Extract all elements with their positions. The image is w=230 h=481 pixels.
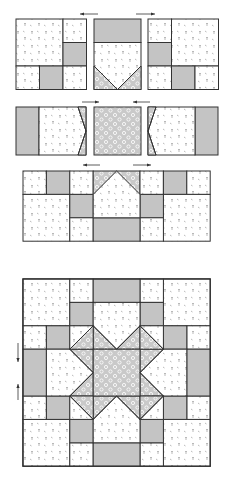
arrow-right: [82, 100, 99, 103]
gray-square: [63, 43, 87, 67]
gray-rectangle: [93, 443, 140, 466]
print-square: [23, 326, 46, 349]
arrow-right: [136, 12, 155, 15]
print-square: [63, 19, 87, 43]
gray-square: [140, 419, 163, 442]
gray-square: [40, 66, 64, 90]
corner-print-square: [163, 194, 210, 241]
print-square: [187, 171, 210, 194]
arrow-head: [80, 12, 84, 15]
print-square: [140, 279, 163, 302]
print-square: [70, 171, 93, 194]
corner-print-square: [16, 19, 63, 66]
gray-square: [70, 302, 93, 325]
step-3-joined-half: [23, 171, 210, 241]
gray-square: [140, 194, 163, 217]
corner-print-square: [23, 194, 70, 241]
arrow-up: [16, 384, 19, 400]
quilt-assembly-diagram: [0, 0, 230, 481]
print-square: [23, 171, 46, 194]
goose-background: [148, 107, 195, 155]
gray-square: [148, 43, 172, 67]
gray-square: [140, 302, 163, 325]
gray-square: [70, 194, 93, 217]
arrow-left: [80, 12, 98, 15]
print-square: [140, 218, 163, 241]
print-square: [70, 218, 93, 241]
gray-square: [46, 396, 69, 419]
corner-print-square: [23, 419, 70, 466]
arrow-left: [133, 100, 150, 103]
arrow-head: [16, 358, 19, 362]
print-square: [187, 326, 210, 349]
gray-square: [172, 66, 196, 90]
arrow-head: [151, 12, 155, 15]
print-square: [187, 396, 210, 419]
print-square: [70, 443, 93, 466]
arrow-right: [133, 163, 151, 166]
corner-print-square: [163, 419, 210, 466]
gray-square: [163, 171, 186, 194]
print-square: [148, 66, 172, 90]
gray-square: [163, 326, 186, 349]
gray-rectangle: [93, 279, 140, 302]
print-square: [23, 396, 46, 419]
gray-square: [46, 326, 69, 349]
print-square: [16, 66, 40, 90]
print-square: [140, 443, 163, 466]
gray-rectangle: [23, 349, 46, 396]
arrow-down: [16, 343, 19, 362]
print-square: [63, 66, 87, 90]
diagram-layer: [16, 12, 219, 466]
floral-center-square: [93, 349, 140, 396]
print-square: [140, 171, 163, 194]
gray-square: [163, 396, 186, 419]
arrow-head: [83, 163, 87, 166]
print-square: [70, 279, 93, 302]
gray-rectangle: [195, 107, 218, 155]
arrow-head: [16, 384, 19, 388]
print-square: [195, 66, 219, 90]
gray-rectangle: [187, 349, 210, 396]
corner-print-square: [163, 279, 210, 326]
arrow-head: [95, 100, 99, 103]
gray-square: [46, 171, 69, 194]
arrow-head: [133, 100, 137, 103]
corner-print-square: [172, 19, 219, 66]
corner-print-square: [23, 279, 70, 326]
floral-center-square: [94, 107, 141, 155]
gray-rectangle: [16, 107, 39, 155]
arrow-head: [147, 163, 151, 166]
step-1-row-units: [16, 19, 219, 90]
gray-rectangle: [93, 218, 140, 241]
gray-square: [70, 419, 93, 442]
step-4-finished-block: [23, 279, 210, 466]
arrow-left: [83, 163, 100, 166]
goose-background: [39, 107, 86, 155]
gray-rectangle: [94, 19, 141, 43]
step-2-middle-units: [16, 107, 218, 155]
print-square: [148, 19, 172, 43]
